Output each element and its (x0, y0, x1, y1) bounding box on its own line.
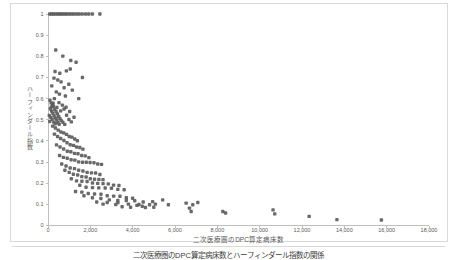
scatter-point (188, 206, 191, 209)
scatter-point (120, 205, 123, 208)
scatter-point (84, 186, 87, 189)
y-tick-label: 0.5 (36, 117, 44, 123)
x-tick-label: 16,000 (378, 227, 395, 233)
scatter-point (65, 69, 68, 72)
scatter-point (129, 206, 132, 209)
scatter-point (97, 186, 100, 189)
x-tick-label: 0 (46, 227, 49, 233)
scatter-point (133, 199, 136, 202)
scatter-point (80, 190, 83, 193)
scatter-point (89, 177, 92, 180)
scatter-point (96, 182, 99, 185)
scatter-point (81, 147, 84, 150)
scatter-point (127, 202, 130, 205)
scatter-point (271, 208, 274, 211)
x-tick-label: 4,000 (126, 227, 140, 233)
scatter-point (55, 143, 58, 146)
scatter-point (58, 92, 61, 95)
scatter-point (148, 203, 151, 206)
scatter-point (65, 141, 68, 144)
scatter-point (87, 12, 90, 15)
scatter-point (273, 212, 276, 215)
scatter-point (335, 218, 338, 221)
scatter-point (72, 144, 75, 147)
scatter-point (53, 70, 56, 73)
x-tick-label: 18,000 (421, 227, 438, 233)
scatter-point (184, 201, 187, 204)
scatter-point (67, 83, 70, 86)
scatter-point (51, 102, 54, 105)
scatter-point (91, 181, 94, 184)
scatter-point (57, 122, 60, 125)
y-tick-label: 0 (40, 222, 43, 228)
scatter-point (50, 105, 53, 108)
y-tick-label: 0.6 (36, 96, 44, 102)
scatter-point (69, 150, 72, 153)
scatter-point (80, 175, 83, 178)
scatter-point (152, 206, 155, 209)
scatter-point (81, 76, 84, 79)
scatter-point (151, 200, 154, 203)
scatter-point (77, 160, 80, 163)
y-tick-label: 0.8 (36, 53, 44, 59)
scatter-point (72, 173, 75, 176)
y-tick-label: 0.1 (36, 201, 44, 207)
scatter-point (224, 211, 227, 214)
scatter-point (64, 106, 67, 109)
scatter-point (55, 106, 58, 109)
scatter-point (95, 200, 98, 203)
scatter-point (72, 116, 75, 119)
scatter-point (92, 161, 95, 164)
scatter-point (90, 171, 93, 174)
scatter-point (98, 12, 101, 15)
scatter-point (84, 175, 87, 178)
scatter-point (118, 195, 121, 198)
y-tick-label: 0.3 (36, 159, 44, 165)
scatter-point (48, 120, 51, 123)
scatter-point (71, 88, 74, 91)
x-tick-label: 12,000 (294, 227, 311, 233)
scatter-point (135, 204, 138, 207)
scatter-point (75, 145, 78, 148)
scatter-point (98, 173, 101, 176)
scatter-point (68, 166, 71, 169)
scatter-point (99, 197, 102, 200)
scatter-point (61, 103, 64, 106)
scatter-point (101, 182, 104, 185)
scatter-point (189, 210, 192, 213)
scatter-point (106, 194, 109, 197)
scatter-point (161, 198, 164, 201)
scatter-point (73, 167, 76, 170)
scatter-point (94, 171, 97, 174)
scatter-point (112, 183, 115, 186)
scatter-point (93, 192, 96, 195)
scatter-point (62, 86, 65, 89)
x-tick-label: 14,000 (336, 227, 353, 233)
scatter-point (84, 12, 87, 15)
scatter-point (76, 139, 79, 142)
scatter-point (87, 192, 90, 195)
scatter-point (112, 194, 115, 197)
scatter-point (144, 206, 147, 209)
scatter-point (74, 190, 77, 193)
scatter-point (69, 158, 72, 161)
scatter-point (69, 67, 72, 70)
scatter-point (73, 158, 76, 161)
scatter-point (87, 156, 90, 159)
scatter-point (76, 152, 79, 155)
x-tick-label: 8,000 (210, 227, 224, 233)
scatter-point (93, 177, 96, 180)
scatter-point (56, 135, 59, 138)
scatter-point (63, 123, 66, 126)
scatter-point (91, 196, 94, 199)
scatter-point (61, 54, 64, 57)
scatter-point (55, 90, 58, 93)
scatter-point (64, 164, 67, 167)
scatter-point (122, 188, 125, 191)
scatter-point (70, 177, 73, 180)
scatter-point (91, 12, 94, 15)
scatter-point (64, 94, 67, 97)
scatter-point (78, 146, 81, 149)
scatter-point (73, 152, 76, 155)
